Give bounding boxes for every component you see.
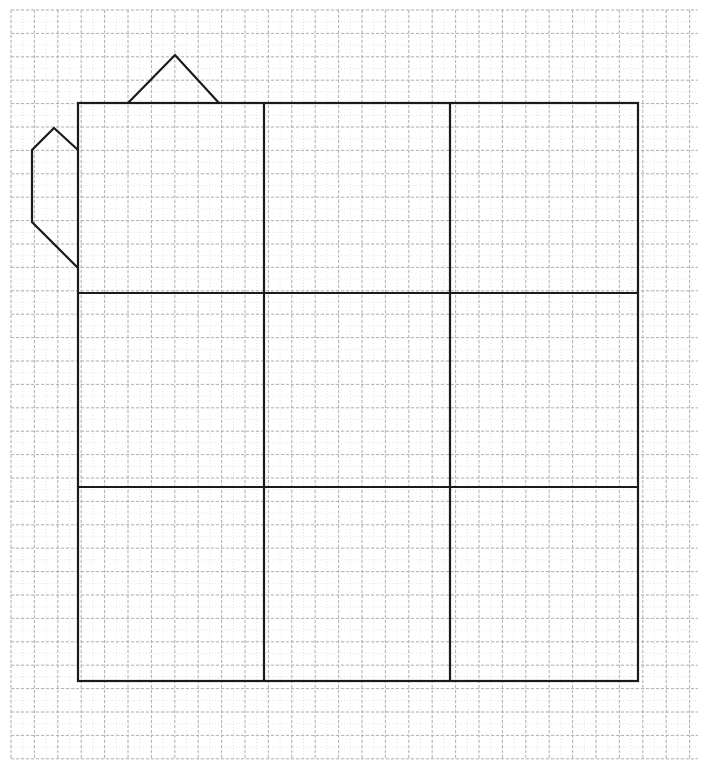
graph-paper-page <box>0 0 709 783</box>
graph-paper-grid <box>0 0 709 783</box>
grid-major-lines <box>11 10 698 760</box>
grid-minor-lines <box>11 10 698 760</box>
